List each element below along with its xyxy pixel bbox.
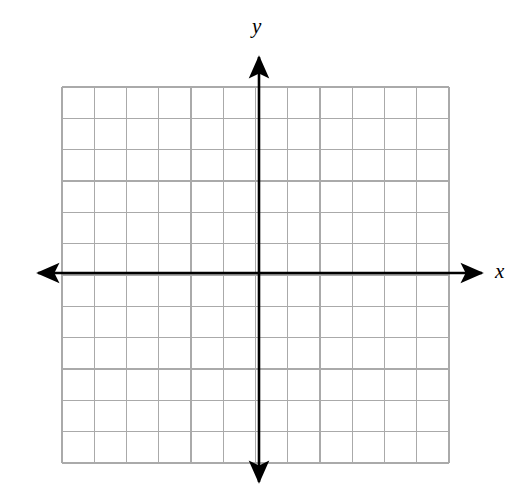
coordinate-plane-figure: y x bbox=[0, 0, 530, 499]
y-axis-label: y bbox=[252, 16, 261, 37]
x-axis-label: x bbox=[495, 261, 504, 282]
coordinate-plane-svg bbox=[0, 0, 530, 499]
